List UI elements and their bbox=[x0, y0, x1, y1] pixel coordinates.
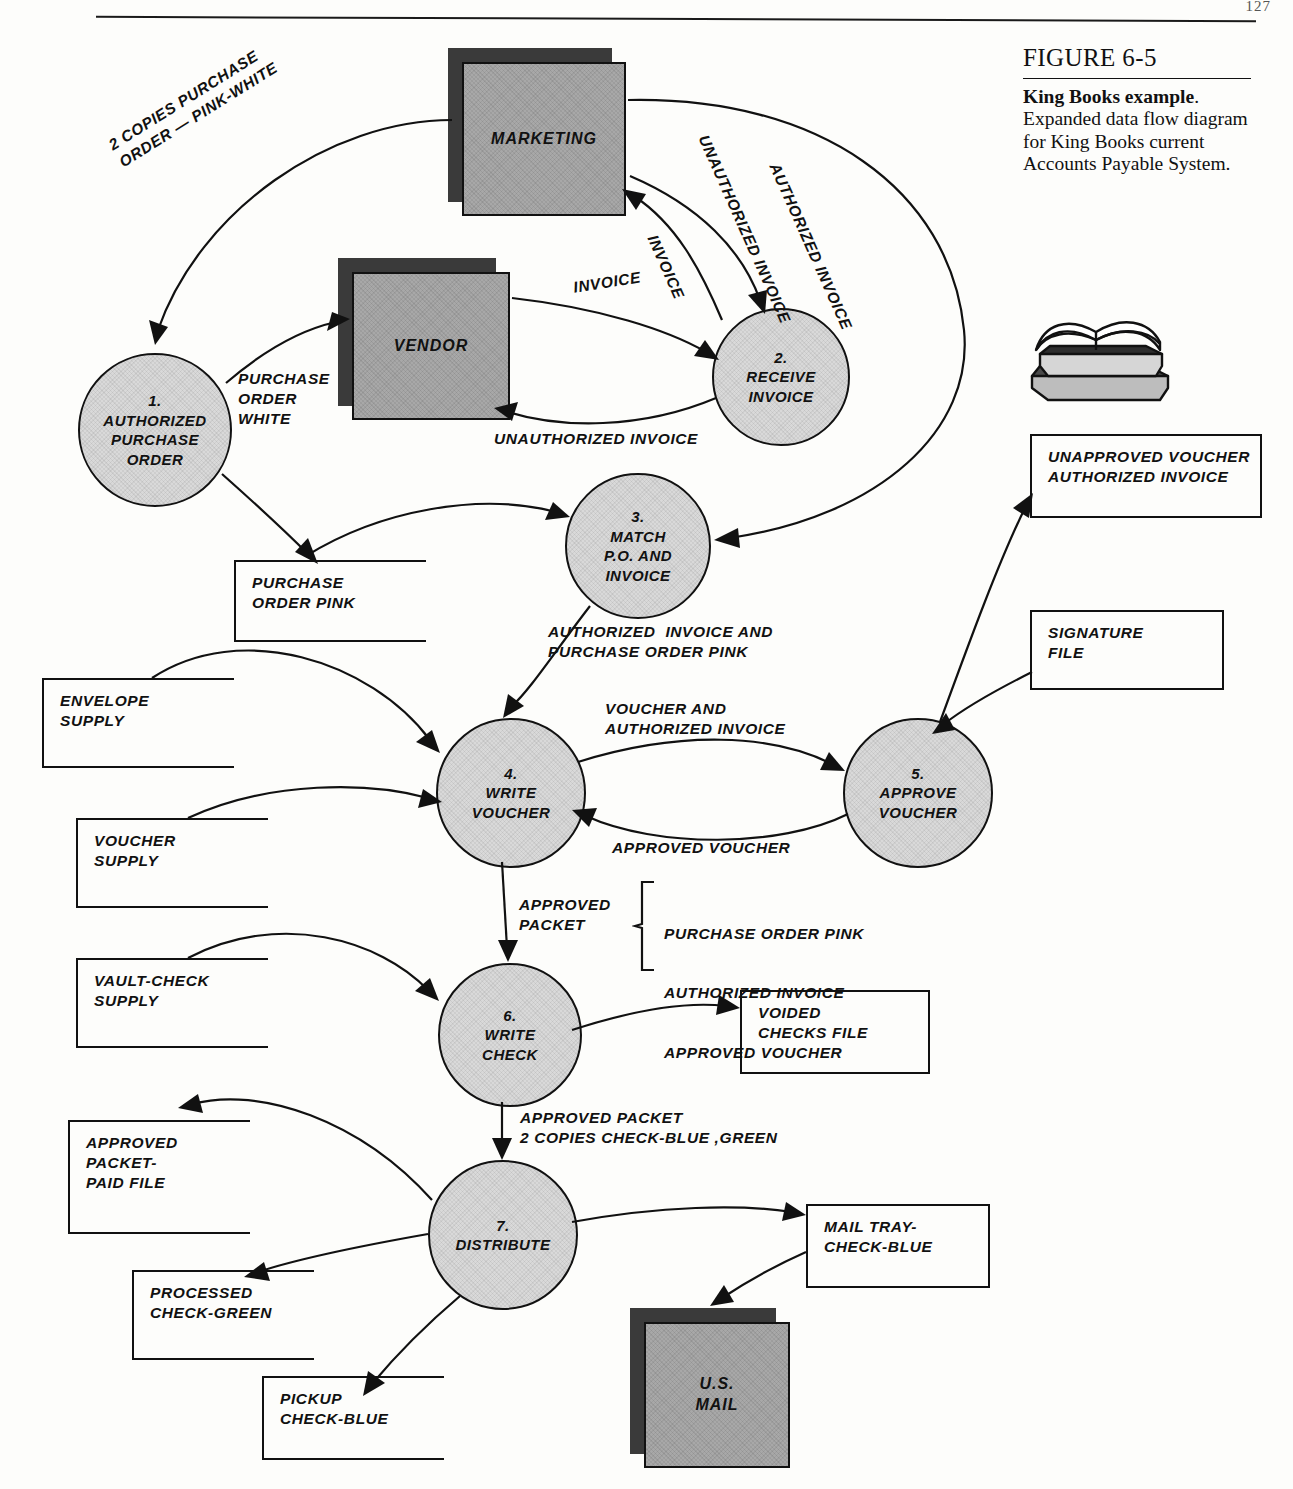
store-label: SIGNATURE FILE bbox=[1048, 623, 1144, 663]
store-label: PURCHASE ORDER PINK bbox=[252, 573, 355, 613]
process-3-match-po-and-invoice[interactable]: 3. MATCH P.O. AND INVOICE bbox=[565, 473, 711, 619]
store-label: ENVELOPE SUPPLY bbox=[60, 691, 149, 731]
process-4-write-voucher[interactable]: 4. WRITE VOUCHER bbox=[436, 718, 586, 868]
entity-label: U.S. MAIL bbox=[695, 1374, 738, 1416]
annotation-item-1: AUTHORIZED INVOICE bbox=[664, 983, 864, 1003]
store-approved-packet-paid-file[interactable]: APPROVED PACKET- PAID FILE bbox=[68, 1120, 250, 1234]
process-2-receive-invoice[interactable]: 2. RECEIVE INVOICE bbox=[712, 308, 850, 446]
process-6-write-check[interactable]: 6. WRITE CHECK bbox=[438, 963, 582, 1107]
process-label: 4. WRITE VOUCHER bbox=[472, 764, 551, 823]
entity-label: MARKETING bbox=[491, 129, 597, 150]
flow-label-invoice-vendor-to-2: INVOICE bbox=[572, 267, 642, 297]
store-envelope-supply[interactable]: ENVELOPE SUPPLY bbox=[42, 678, 234, 768]
store-label: VAULT-CHECK SUPPLY bbox=[94, 971, 209, 1011]
store-purchase-order-pink[interactable]: PURCHASE ORDER PINK bbox=[234, 560, 426, 642]
figure-number: FIGURE 6-5 bbox=[1023, 44, 1273, 72]
folio-number: 127 bbox=[1246, 0, 1272, 15]
process-7-distribute[interactable]: 7. DISTRIBUTE bbox=[428, 1160, 578, 1310]
store-label: APPROVED PACKET- PAID FILE bbox=[86, 1133, 178, 1193]
flow-label-invoice-2-to-marketing: INVOICE bbox=[643, 232, 689, 302]
process-label: 6. WRITE CHECK bbox=[482, 1006, 538, 1065]
flow-label-purchase-order-white: PURCHASE ORDER WHITE bbox=[238, 369, 330, 428]
store-label: VOUCHER SUPPLY bbox=[94, 831, 176, 871]
entity-face: MARKETING bbox=[462, 62, 626, 216]
process-1-authorized-purchase-order[interactable]: 1. AUTHORIZED PURCHASE ORDER bbox=[78, 353, 232, 507]
store-label: PICKUP CHECK-BLUE bbox=[280, 1389, 388, 1429]
process-label: 5. APPROVE VOUCHER bbox=[879, 764, 958, 823]
store-pickup-check-blue[interactable]: PICKUP CHECK-BLUE bbox=[262, 1376, 444, 1460]
process-label: 7. DISTRIBUTE bbox=[456, 1216, 551, 1255]
approved-packet-bracket-icon bbox=[632, 880, 658, 972]
caption-divider bbox=[1023, 78, 1251, 79]
entity-face: U.S. MAIL bbox=[644, 1322, 790, 1468]
figure-page: 127 FIGURE 6-5 King Books example. Expan… bbox=[0, 0, 1293, 1489]
store-signature-file[interactable]: SIGNATURE FILE bbox=[1030, 610, 1224, 690]
header-rule bbox=[96, 16, 1256, 22]
entity-marketing[interactable]: MARKETING bbox=[448, 48, 626, 216]
flow-label-authorized-invoice-and-po-pink: AUTHORIZED INVOICE AND PURCHASE ORDER PI… bbox=[548, 622, 773, 662]
entity-label: VENDOR bbox=[394, 336, 468, 357]
flow-label-approved-voucher: APPROVED VOUCHER bbox=[612, 838, 790, 858]
store-processed-check-green[interactable]: PROCESSED CHECK-GREEN bbox=[132, 1270, 314, 1360]
flow-label-2-copies-purchase-order: 2 COPIES PURCHASE ORDER — PINK-WHITE bbox=[105, 41, 281, 172]
flow-label-unauthorized-invoice-2-to-vendor: UNAUTHORIZED INVOICE bbox=[494, 429, 698, 449]
entity-face: VENDOR bbox=[352, 272, 510, 420]
process-label: 2. RECEIVE INVOICE bbox=[746, 348, 815, 407]
store-label: MAIL TRAY- CHECK-BLUE bbox=[824, 1217, 932, 1257]
entity-vendor[interactable]: VENDOR bbox=[338, 258, 510, 420]
caption-text: King Books example. Expanded data flow d… bbox=[1023, 86, 1273, 176]
stack-of-books-icon bbox=[1010, 288, 1188, 408]
store-unapproved-voucher[interactable]: UNAPPROVED VOUCHER AUTHORIZED INVOICE bbox=[1030, 434, 1262, 518]
process-label: 1. AUTHORIZED PURCHASE ORDER bbox=[103, 391, 206, 469]
annotation-item-2: APPROVED VOUCHER bbox=[664, 1043, 864, 1063]
store-voucher-supply[interactable]: VOUCHER SUPPLY bbox=[76, 818, 268, 908]
flow-label-approved-packet: APPROVED PACKET bbox=[519, 895, 611, 935]
store-vault-check-supply[interactable]: VAULT-CHECK SUPPLY bbox=[76, 958, 268, 1048]
entity-us-mail[interactable]: U.S. MAIL bbox=[630, 1308, 790, 1468]
figure-caption: FIGURE 6-5 King Books example. Expanded … bbox=[1023, 44, 1273, 176]
process-5-approve-voucher[interactable]: 5. APPROVE VOUCHER bbox=[843, 718, 993, 868]
process-label: 3. MATCH P.O. AND INVOICE bbox=[604, 507, 672, 585]
store-label: UNAPPROVED VOUCHER AUTHORIZED INVOICE bbox=[1048, 447, 1250, 487]
flow-label-approved-packet-2-copies-check: APPROVED PACKET 2 COPIES CHECK-BLUE ,GRE… bbox=[520, 1108, 778, 1148]
annotation-item-0: PURCHASE ORDER PINK bbox=[664, 924, 864, 944]
store-label: PROCESSED CHECK-GREEN bbox=[150, 1283, 272, 1323]
store-mail-tray-check-blue[interactable]: MAIL TRAY- CHECK-BLUE bbox=[806, 1204, 990, 1288]
caption-title: King Books example bbox=[1023, 86, 1194, 107]
annotation-approved-packet-items: PURCHASE ORDER PINK AUTHORIZED INVOICE A… bbox=[664, 884, 864, 1102]
flow-label-voucher-and-authorized-invoice: VOUCHER AND AUTHORIZED INVOICE bbox=[605, 699, 785, 739]
